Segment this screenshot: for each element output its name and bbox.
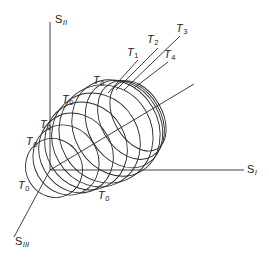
axis-label-s2: SII — [55, 14, 67, 27]
label-t2: T2 — [147, 34, 158, 47]
label-t0-d: T0 — [26, 136, 37, 149]
axis-label-s1: SI — [247, 164, 257, 177]
stress-space-diagram: SII SI SIII T0 T0 T0 T0 T0 T0 T1 T2 T3 T… — [0, 0, 269, 260]
label-t0-a: T0 — [93, 75, 104, 88]
label-t0-c: T0 — [40, 119, 51, 132]
label-t4: T4 — [164, 49, 175, 62]
label-t0-b: T0 — [62, 94, 73, 107]
label-t0-e: T0 — [18, 180, 29, 193]
label-t3: T3 — [176, 23, 187, 36]
axis-label-s3: SIII — [15, 236, 29, 249]
temperature-lines — [108, 36, 180, 93]
label-t0-f: T0 — [98, 190, 109, 203]
label-t1: T1 — [127, 47, 138, 60]
